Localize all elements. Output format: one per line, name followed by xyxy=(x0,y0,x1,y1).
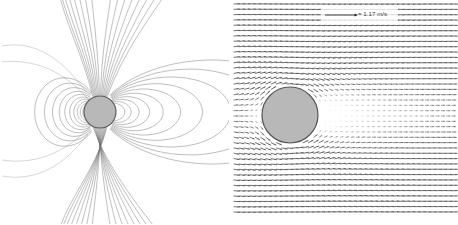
streamline xyxy=(58,0,94,97)
velocity-arrowhead xyxy=(416,110,417,111)
velocity-arrowhead xyxy=(333,79,335,80)
velocity-arrowhead xyxy=(384,121,385,122)
velocity-arrowhead xyxy=(253,82,255,83)
sphere-right xyxy=(262,87,318,143)
streamline xyxy=(71,128,102,224)
streamline xyxy=(93,127,229,224)
velocity-arrowhead xyxy=(411,110,412,111)
velocity-arrowhead xyxy=(379,121,380,122)
streamline xyxy=(112,89,181,135)
velocity-arrowhead xyxy=(395,110,396,111)
velocity-arrowhead xyxy=(312,79,314,80)
velocity-arrowhead xyxy=(411,115,412,116)
streamline xyxy=(62,128,105,224)
velocity-arrowhead xyxy=(280,82,282,83)
velocity-arrowhead xyxy=(363,121,364,122)
velocity-arrowhead xyxy=(400,115,401,116)
velocity-arrowhead xyxy=(384,115,385,116)
velocity-arrowhead xyxy=(406,110,407,111)
velocity-arrowhead xyxy=(358,100,359,101)
velocity-arrowhead xyxy=(411,121,412,122)
velocity-arrowhead xyxy=(400,110,401,111)
velocity-arrowhead xyxy=(357,126,358,127)
velocity-arrowhead xyxy=(389,115,390,116)
streamline xyxy=(86,128,100,224)
velocity-arrowhead xyxy=(389,110,390,111)
velocity-arrowhead xyxy=(390,126,391,127)
velocity-arrowhead xyxy=(374,126,375,127)
vector-field-svg xyxy=(229,0,458,224)
velocity-arrowhead xyxy=(379,126,380,127)
velocity-arrowhead xyxy=(395,126,396,127)
velocity-arrowhead xyxy=(395,121,396,122)
velocity-arrowhead xyxy=(416,121,417,122)
scale-bar-label: = 1.17 m/s xyxy=(358,10,387,18)
velocity-arrowhead xyxy=(264,154,266,155)
velocity-arrowhead xyxy=(363,126,364,127)
velocity-arrowhead xyxy=(400,126,401,127)
velocity-arrowhead xyxy=(406,115,407,116)
velocity-arrow xyxy=(261,109,262,110)
velocity-arrowhead xyxy=(368,126,369,127)
velocity-arrowhead xyxy=(400,121,401,122)
streamline xyxy=(111,77,229,147)
streamline xyxy=(59,128,105,225)
streamline xyxy=(112,93,163,130)
velocity-arrowhead xyxy=(368,105,369,106)
velocity-arrowhead xyxy=(312,152,314,153)
velocity-arrowhead xyxy=(258,82,260,83)
velocity-arrow xyxy=(319,126,320,127)
velocity-arrowhead xyxy=(368,115,369,116)
velocity-arrowhead xyxy=(385,100,386,101)
velocity-arrowhead xyxy=(416,115,417,116)
streamline xyxy=(58,0,93,97)
velocity-vector-panel xyxy=(229,0,458,224)
velocity-arrowhead xyxy=(373,110,374,111)
velocity-arrowhead xyxy=(322,152,324,153)
streamline xyxy=(105,0,201,97)
velocity-arrowhead xyxy=(390,121,391,122)
velocity-arrowhead xyxy=(363,105,364,106)
velocity-arrowhead xyxy=(384,126,385,127)
velocity-arrowhead xyxy=(374,131,375,132)
streamline xyxy=(107,0,229,97)
velocity-arrowhead xyxy=(247,93,249,94)
velocity-arrowhead xyxy=(269,77,271,78)
velocity-arrowhead xyxy=(352,100,353,101)
streamline-contour-panel xyxy=(0,0,229,224)
velocity-arrowhead xyxy=(379,105,380,106)
velocity-arrowhead xyxy=(274,77,276,78)
velocity-arrowhead xyxy=(352,126,353,127)
velocity-arrowhead xyxy=(379,100,380,101)
velocity-arrowhead xyxy=(368,121,369,122)
velocity-arrowhead xyxy=(347,126,348,127)
velocity-arrowhead xyxy=(317,152,319,153)
velocity-arrow xyxy=(324,126,325,127)
velocity-arrowhead xyxy=(406,121,407,122)
streamline xyxy=(2,45,86,92)
velocity-arrowhead xyxy=(390,105,391,106)
streamline xyxy=(111,69,229,155)
streamline xyxy=(2,61,92,104)
velocity-arrow xyxy=(330,126,331,127)
velocity-arrowhead xyxy=(357,105,358,106)
velocity-arrowhead xyxy=(269,154,271,155)
streamline xyxy=(62,0,96,96)
velocity-arrowhead xyxy=(373,115,374,116)
velocity-arrowhead xyxy=(395,115,396,116)
velocity-arrowhead xyxy=(363,131,364,132)
figure-container: = 1.17 m/s xyxy=(0,0,458,224)
streamline xyxy=(103,0,164,96)
streamline xyxy=(66,128,104,224)
velocity-arrowhead xyxy=(327,79,329,80)
velocity-arrowhead xyxy=(373,121,374,122)
streamline xyxy=(78,0,98,96)
velocity-arrowhead xyxy=(358,131,359,132)
streamline xyxy=(78,128,101,224)
velocity-arrowhead xyxy=(332,84,334,85)
velocity-arrowhead xyxy=(406,105,407,106)
streamline xyxy=(104,0,182,96)
velocity-arrowhead xyxy=(368,100,369,101)
velocity-arrowhead xyxy=(259,77,261,78)
velocity-arrowhead xyxy=(379,115,380,116)
